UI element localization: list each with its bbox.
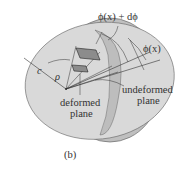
phi-label: ϕ(x) xyxy=(143,44,161,55)
radius-c-label: c xyxy=(37,66,42,77)
deformed-plane-label-line2: plane xyxy=(70,109,93,120)
deformed-plane-label-line1: deformed xyxy=(60,98,100,109)
phi-plus-dphi-label: ϕ(x) + dϕ xyxy=(98,12,138,23)
radius-rho-label: ρ xyxy=(55,72,60,83)
figure-caption: (b) xyxy=(64,150,76,161)
undeformed-plane-label-line2: plane xyxy=(137,96,160,107)
shear-element-inner xyxy=(72,65,88,72)
undeformed-plane-label-line1: undeformed xyxy=(122,85,173,96)
